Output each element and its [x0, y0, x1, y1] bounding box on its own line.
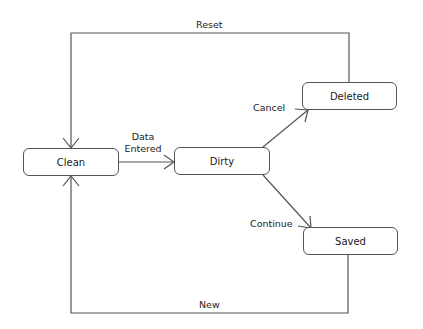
data-entered-label-line2: Entered [124, 143, 162, 155]
state-deleted: Deleted [302, 82, 397, 110]
state-dirty-label: Dirty [210, 156, 234, 167]
state-clean-label: Clean [57, 157, 85, 168]
data-entered-label: Data Entered [124, 131, 162, 155]
state-dirty: Dirty [174, 147, 270, 175]
cancel-label: Cancel [253, 102, 285, 114]
cancel-transition-line [263, 110, 308, 147]
state-saved-label: Saved [335, 236, 366, 247]
state-clean: Clean [23, 148, 119, 176]
state-diagram: Clean Dirty Deleted Saved Data Entered C… [0, 0, 423, 329]
state-deleted-label: Deleted [330, 91, 369, 102]
continue-label: Continue [250, 218, 293, 230]
state-saved: Saved [303, 227, 398, 255]
new-label: New [199, 299, 220, 311]
reset-label: Reset [196, 19, 223, 31]
data-entered-label-line1: Data [124, 131, 162, 143]
